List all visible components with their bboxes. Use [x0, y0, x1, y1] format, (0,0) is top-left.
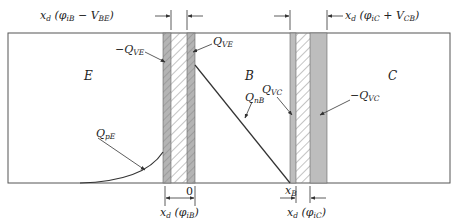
emitter-label: E — [84, 70, 93, 82]
qve-label: QVE — [213, 36, 233, 49]
origin-label: 0 — [186, 186, 193, 197]
cb-hatched-gap — [296, 33, 310, 183]
eb-hatched-gap — [171, 33, 187, 183]
eb-pos-charge-strip — [187, 33, 195, 183]
top-right-dimension — [274, 10, 343, 30]
bottom-right-dimension-label: xd (φiC) — [287, 207, 326, 220]
xb-label: xB — [285, 185, 297, 198]
qvc-label: QVC — [262, 84, 282, 97]
qnb-line — [195, 65, 290, 183]
top-left-dimension-label: xd (φiB − VBE) — [40, 10, 114, 23]
base-label: B — [245, 70, 254, 82]
top-right-dimension-label: xd (φiC + VCB) — [345, 10, 419, 23]
neg-qve-leader — [145, 52, 165, 62]
eb-depletion-region — [163, 33, 195, 183]
qpe-leader — [98, 138, 145, 170]
qpe-label: QpE — [96, 128, 115, 141]
cb-depletion-region — [290, 33, 327, 183]
neg-qve-label: −QVE — [115, 44, 144, 57]
cb-pos-charge-strip — [290, 33, 296, 183]
qpe-curve — [80, 152, 163, 183]
cb-neg-charge-strip — [310, 33, 327, 183]
eb-neg-charge-strip — [163, 33, 171, 183]
top-left-dimension — [155, 10, 203, 30]
qve-leader — [193, 44, 212, 52]
collector-label: C — [388, 70, 397, 82]
neg-qvc-label: −QVC — [350, 90, 379, 103]
bottom-left-dimension-label: xd (φiB) — [160, 207, 199, 220]
bjt-charge-diagram — [0, 0, 456, 223]
